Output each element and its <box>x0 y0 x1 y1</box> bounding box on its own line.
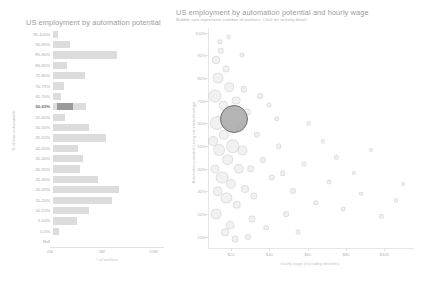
bubble[interactable] <box>306 121 311 126</box>
bubble[interactable] <box>226 35 231 40</box>
scatter-plot[interactable] <box>208 28 413 248</box>
bar-track <box>53 164 164 174</box>
bubble[interactable] <box>241 86 247 92</box>
bubble[interactable] <box>341 207 346 212</box>
y-axis-tick-mark <box>206 101 209 102</box>
bubble[interactable] <box>213 187 223 197</box>
bubble[interactable] <box>221 193 232 204</box>
bar-row-label: Null <box>24 239 53 244</box>
bar-row[interactable]: 0-5% <box>24 226 164 236</box>
bar-row[interactable]: 50-55% <box>24 122 164 132</box>
bar-track <box>53 122 164 132</box>
bar-row[interactable]: 5-10% <box>24 216 164 226</box>
bubble[interactable] <box>296 230 301 235</box>
y-axis-tick-mark <box>206 191 209 192</box>
bar-row-label: 15-20% <box>24 198 53 203</box>
bubble[interactable] <box>369 148 373 152</box>
bubble[interactable] <box>248 215 255 222</box>
bar-row[interactable]: 85-90% <box>24 50 164 60</box>
bubble[interactable] <box>267 103 272 108</box>
bubble[interactable] <box>268 174 275 181</box>
bubble[interactable] <box>359 191 364 196</box>
bar-row[interactable]: 45-50% <box>24 133 164 143</box>
bar-row[interactable]: 30-35% <box>24 164 164 174</box>
bubble[interactable] <box>236 124 244 132</box>
bubble[interactable] <box>218 47 224 53</box>
bubble[interactable] <box>263 225 269 231</box>
bubble[interactable] <box>233 163 243 173</box>
bubble[interactable] <box>239 53 244 58</box>
bar-row[interactable]: Null <box>24 237 164 247</box>
bar-row[interactable]: 70-75% <box>24 81 164 91</box>
bubble[interactable] <box>257 93 263 99</box>
bar-row[interactable]: 75-80% <box>24 71 164 81</box>
bar-row-label: 55-60% <box>24 115 53 120</box>
bar-track <box>53 216 164 226</box>
bar-row[interactable]: 55-60% <box>24 112 164 122</box>
bar-row[interactable]: 65-70% <box>24 91 164 101</box>
bubble[interactable] <box>221 228 229 236</box>
bubble[interactable] <box>222 65 229 72</box>
bar-row-label: 45-50% <box>24 135 53 140</box>
bubble[interactable] <box>247 165 255 173</box>
bar-fill <box>53 134 106 141</box>
bar-row[interactable]: 90-95% <box>24 39 164 49</box>
bubble[interactable] <box>326 180 331 185</box>
bubble[interactable] <box>232 96 241 105</box>
bubble[interactable] <box>283 211 289 217</box>
bubble[interactable] <box>260 157 266 163</box>
bar-row[interactable]: 40-45% <box>24 143 164 153</box>
bubble[interactable] <box>254 131 260 137</box>
bubble[interactable] <box>212 56 220 64</box>
bubble[interactable] <box>208 90 221 103</box>
bubble[interactable] <box>208 136 218 146</box>
bubble[interactable] <box>379 214 383 218</box>
bar-row-label: 0-5% <box>24 229 53 234</box>
x-axis-tick-mark <box>231 248 232 251</box>
bubble[interactable] <box>276 143 282 149</box>
bubble[interactable] <box>226 179 236 189</box>
bar-row[interactable]: 60-65% <box>24 102 164 112</box>
bubble[interactable] <box>394 198 398 202</box>
bar-row[interactable]: 25-30% <box>24 174 164 184</box>
bubble[interactable] <box>401 182 405 186</box>
bubble[interactable] <box>313 200 319 206</box>
bubble[interactable] <box>321 139 325 143</box>
y-axis-tick-label: 10% <box>188 234 206 239</box>
bar-row[interactable]: 20-25% <box>24 185 164 195</box>
bar-row[interactable]: 10-15% <box>24 205 164 215</box>
bubble[interactable] <box>217 39 223 45</box>
right-x-axis-title: hourly wage (excluding benefits) <box>281 261 340 266</box>
bar-row[interactable]: 80-85% <box>24 60 164 70</box>
bubble[interactable] <box>245 234 251 240</box>
bubble[interactable] <box>233 201 241 209</box>
bubble[interactable] <box>222 154 234 166</box>
x-axis-tick-label: $60 <box>304 252 311 257</box>
bubble[interactable] <box>241 185 249 193</box>
x-axis-tick-mark <box>346 248 347 251</box>
x-axis-tick-label: 5M <box>99 249 105 254</box>
bubble[interactable] <box>274 116 279 121</box>
bubble[interactable] <box>334 155 338 159</box>
bar-track <box>53 50 164 60</box>
bubble[interactable] <box>211 209 222 220</box>
bar-row[interactable]: 15-20% <box>24 195 164 205</box>
bubble[interactable] <box>352 171 356 175</box>
left-x-axis-title: # of workers <box>96 257 118 262</box>
bar-row[interactable]: 95-100% <box>24 29 164 39</box>
x-axis-tick-label: 0M <box>47 249 53 254</box>
bar-track <box>53 174 164 184</box>
bubble[interactable] <box>224 82 234 92</box>
bubble[interactable] <box>280 170 286 176</box>
bar-row[interactable]: 35-40% <box>24 154 164 164</box>
bubble[interactable] <box>250 192 257 199</box>
bubble[interactable] <box>244 109 251 116</box>
bar-fill <box>53 82 64 89</box>
bubble[interactable] <box>290 188 296 194</box>
bubble[interactable] <box>226 139 240 153</box>
bubble[interactable] <box>231 236 238 243</box>
right-chart-subtitle: Bubble size represents number of workers… <box>176 17 306 22</box>
bubble[interactable] <box>213 72 224 83</box>
bubble[interactable] <box>301 161 306 166</box>
y-axis-tick-mark <box>206 214 209 215</box>
